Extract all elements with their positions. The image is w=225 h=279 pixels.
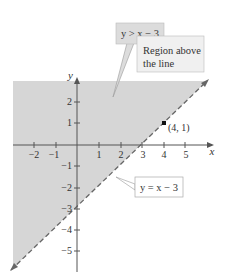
equation-callout-pointer	[116, 177, 135, 190]
x-tick-label: 1	[97, 149, 102, 160]
inequality-graph: −2 −1 1 2 3 4 5 x 2 1 −1 −2 −3 −4 −5 y (…	[0, 0, 225, 279]
x-tick-label: 2	[119, 149, 124, 160]
point-label: (4, 1)	[168, 122, 190, 134]
y-tick-label: 1	[67, 117, 72, 128]
x-tick-label: 3	[141, 149, 146, 160]
y-tick-label: 2	[67, 96, 72, 107]
region-label-line2: the line	[143, 58, 175, 69]
point-marker	[162, 121, 166, 125]
y-axis-arrow-icon	[74, 77, 80, 84]
x-tick-label: 4	[162, 149, 167, 160]
x-tick-label: −1	[49, 149, 60, 160]
equation-label: y = x − 3	[140, 182, 178, 193]
y-tick-label: −4	[61, 224, 72, 235]
y-tick-label: −2	[61, 182, 72, 193]
y-tick-label: −3	[61, 203, 72, 214]
x-tick-label: −2	[29, 149, 40, 160]
y-tick-label: −1	[61, 160, 72, 171]
x-axis-label: x	[209, 145, 215, 157]
y-axis-label: y	[67, 69, 73, 81]
y-tick-label: −5	[61, 245, 72, 256]
region-label-line1: Region above	[143, 45, 201, 56]
x-tick-label: 5	[184, 149, 189, 160]
